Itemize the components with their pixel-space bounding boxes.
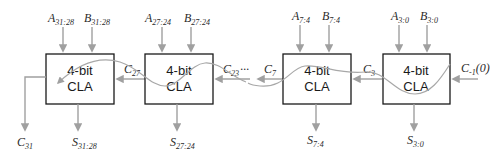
- label-c31: C31: [17, 135, 33, 151]
- block-label-line1: 4-bit: [67, 63, 93, 78]
- carry-out-c31-arrow: [25, 77, 46, 130]
- block-label-line1: 4-bit: [403, 63, 429, 78]
- label-a-27-24: A27:24: [144, 11, 171, 27]
- label-s-31-28: S31:28: [72, 135, 97, 151]
- label-s-7-4: S7:4: [307, 133, 324, 149]
- block-label-line2: CLA: [166, 79, 192, 94]
- label-b-7-4: B7:4: [322, 9, 340, 25]
- label-c3: C3: [363, 62, 375, 78]
- label-c7: C7: [264, 62, 277, 78]
- cla-block-31-28: A31:28 B31:28 4-bit CLA S31:28: [46, 11, 114, 151]
- cla-adder-diagram: A31:28 B31:28 4-bit CLA S31:28 C31 C27 A…: [0, 0, 500, 159]
- label-s-27-24: S27:24: [170, 135, 195, 151]
- label-a-3-0: A3:0: [390, 9, 409, 25]
- label-b-27-24: B27:24: [184, 11, 210, 27]
- label-b-31-28: B31:28: [84, 11, 110, 27]
- label-a-31-28: A31:28: [47, 11, 74, 27]
- label-a-7-4: A7:4: [291, 9, 310, 25]
- label-c23: C23···: [223, 62, 249, 78]
- block-label-line1: 4-bit: [166, 63, 192, 78]
- block-label-line2: CLA: [67, 79, 93, 94]
- label-b-3-0: B3:0: [420, 9, 438, 25]
- label-cin: C-1(0): [461, 61, 490, 77]
- label-s-3-0: S3:0: [407, 133, 424, 149]
- cla-block-7-4: A7:4 B7:4 4-bit CLA S7:4: [283, 9, 351, 149]
- block-label-line2: CLA: [304, 79, 330, 94]
